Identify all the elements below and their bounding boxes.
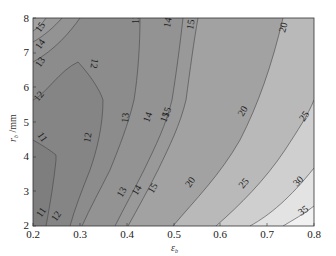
x-tick-label: 0.8 (307, 228, 321, 240)
y-tick-label: 2 (24, 219, 30, 231)
y-tick-label: 6 (24, 81, 30, 93)
y-tick-label: 8 (24, 12, 30, 24)
y-tick-label: 5 (24, 116, 30, 128)
x-tick-label: 0.4 (120, 228, 134, 240)
y-tick-label: 3 (24, 185, 30, 197)
contour-label: 12 (81, 132, 94, 144)
y-axis: 2 3 4 5 6 7 8 rb /mm (7, 12, 36, 231)
plot-area: 15 14 13 12 11 12 13 14 15 20 13 14 15 1… (31, 14, 314, 226)
x-tick-label: 0.5 (167, 228, 181, 240)
x-axis-label: εb (171, 242, 178, 254)
contour-label: 13 (119, 112, 131, 123)
x-axis: 0.2 0.3 0.4 0.5 0.6 0.7 0.8 εb (26, 223, 321, 254)
x-tick-label: 0.6 (213, 228, 227, 240)
contour-label: 12 (88, 58, 101, 70)
contour-label: 15 (184, 19, 197, 31)
contour-chart: 15 14 13 12 11 12 13 14 15 20 13 14 15 1… (0, 0, 336, 256)
x-tick-label: 0.3 (73, 228, 87, 240)
y-tick-label: 7 (24, 46, 30, 58)
y-tick-label: 4 (24, 150, 30, 162)
x-tick-label: 0.7 (260, 228, 274, 240)
y-axis-label: rb /mm (7, 114, 19, 142)
contour-label: 13 (130, 14, 141, 24)
